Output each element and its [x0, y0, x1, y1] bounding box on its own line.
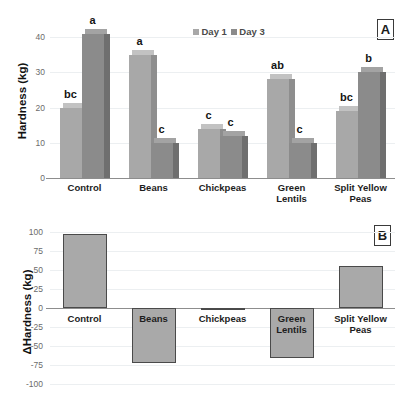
bar-front-face	[60, 108, 82, 178]
panel-a-plot-area: 010203040bcaacccabcbcb	[50, 30, 395, 178]
y-tick-label: 50	[17, 266, 43, 275]
gridline	[50, 346, 395, 347]
x-axis-category-label: GreenLentils	[257, 182, 326, 204]
significance-letter: a	[121, 35, 159, 47]
x-axis-category-label-line: Beans	[114, 313, 194, 324]
bar-beans-day-1	[129, 55, 151, 178]
y-tick-label: 75	[17, 247, 43, 256]
significance-letter: c	[212, 116, 250, 128]
y-tick-label: 30	[19, 68, 45, 77]
bar-front-face	[220, 136, 242, 178]
bar-front-face	[289, 143, 311, 178]
bar-front-face	[82, 34, 104, 178]
x-axis-category-label: Chickpeas	[188, 182, 257, 204]
bar-control-day-1	[60, 108, 82, 178]
figure-container: A Hardness (kg) Day 1Day 3 010203040bcaa…	[0, 0, 403, 416]
bar-split-yellow-peas	[339, 266, 383, 308]
bar-side-face	[173, 143, 179, 178]
y-tick-label: 20	[19, 104, 45, 113]
y-tick-label: -100	[17, 380, 43, 389]
bar-control-day-3	[82, 34, 104, 178]
bar-chickpeas-day-3	[220, 136, 242, 178]
bar-chickpeas-day-1	[198, 129, 220, 178]
bar-chickpeas	[201, 308, 245, 310]
y-tick-label: 100	[17, 228, 43, 237]
x-axis-category-label-line: Chickpeas	[183, 313, 263, 324]
bar-side-face	[311, 143, 317, 178]
bar-front-face	[129, 55, 151, 178]
bar-side-face	[104, 34, 110, 178]
bar-front-face	[151, 143, 173, 178]
x-axis-category-label: GreenLentils	[252, 313, 332, 335]
significance-letter: b	[350, 52, 388, 64]
significance-letter: c	[143, 123, 181, 135]
x-axis-category-label-line: Lentils	[252, 324, 332, 335]
bar-top-face	[85, 29, 107, 34]
y-tick-label: 0	[19, 174, 45, 183]
x-axis-category-label-line: Chickpeas	[188, 182, 257, 193]
panel-a-x-axis-labels: ControlBeansChickpeasGreenLentilsSplit Y…	[50, 182, 395, 204]
significance-letter: ab	[259, 59, 297, 71]
significance-letter: a	[74, 14, 112, 26]
y-tick-label: 25	[17, 285, 43, 294]
bar-front-face	[198, 129, 220, 178]
bar-front-face	[358, 72, 380, 178]
x-axis-category-label: Split YellowPeas	[326, 182, 395, 204]
x-axis-category-label-line: Peas	[326, 193, 395, 204]
bar-control	[63, 234, 107, 308]
x-axis-category-label-line: Control	[45, 313, 125, 324]
x-axis-category-label: Beans	[114, 313, 194, 324]
gridline	[50, 384, 395, 385]
significance-letter: c	[281, 123, 319, 135]
x-axis-category-label-line: Lentils	[257, 193, 326, 204]
bar-top-face	[132, 50, 154, 55]
panel-a: A Hardness (kg) Day 1Day 3 010203040bcaa…	[0, 0, 403, 210]
x-axis-category-label-line: Split Yellow	[321, 313, 401, 324]
bar-beans-day-3	[151, 143, 173, 178]
x-axis-line	[46, 178, 395, 179]
x-axis-category-label-line: Peas	[321, 324, 401, 335]
y-tick-label: -50	[17, 342, 43, 351]
x-axis-category-label-line: Split Yellow	[326, 182, 395, 193]
x-axis-category-label-line: Green	[257, 182, 326, 193]
y-tick-label: -75	[17, 361, 43, 370]
y-tick-label: 0	[17, 304, 43, 313]
panel-b-plot-area: -100-75-50-250255075100ControlBeansChick…	[50, 232, 395, 384]
bar-split-yellow-peas-day-1	[336, 111, 358, 178]
x-axis-category-label-line: Control	[50, 182, 119, 193]
gridline	[50, 365, 395, 366]
y-tick-label: 10	[19, 139, 45, 148]
x-axis-category-label: Chickpeas	[183, 313, 263, 324]
bar-side-face	[242, 136, 248, 178]
x-axis-category-label-line: Green	[252, 313, 332, 324]
bar-top-face	[270, 74, 292, 79]
bar-side-face	[380, 72, 386, 178]
bar-top-face	[361, 67, 383, 72]
bar-top-face	[292, 138, 314, 143]
y-tick-label: 40	[19, 33, 45, 42]
bar-front-face	[336, 111, 358, 178]
y-tick-label: -25	[17, 323, 43, 332]
x-axis-category-label: Beans	[119, 182, 188, 204]
bar-split-yellow-peas-day-3	[358, 72, 380, 178]
bar-top-face	[154, 138, 176, 143]
bar-top-face	[223, 131, 245, 136]
panel-b: B ΔHardness (kg) -100-75-50-250255075100…	[0, 206, 403, 416]
x-axis-category-label: Control	[50, 182, 119, 204]
bar-green-lentils-day-3	[289, 143, 311, 178]
x-axis-category-label-line: Beans	[119, 182, 188, 193]
x-axis-category-label: Control	[45, 313, 125, 324]
x-axis-category-label: Split YellowPeas	[321, 313, 401, 335]
